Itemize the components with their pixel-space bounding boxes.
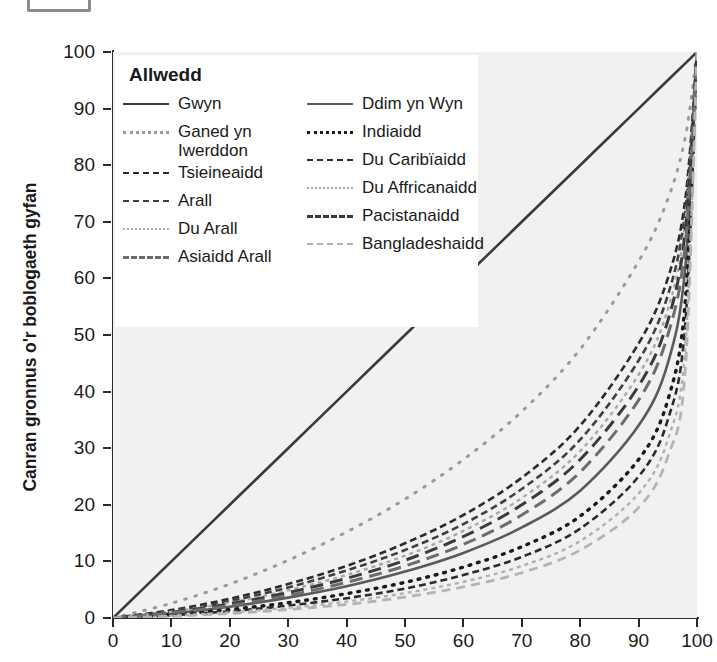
x-tick-mark	[287, 619, 289, 627]
legend-line-swatch	[307, 94, 355, 116]
y-tick-label: 60	[35, 268, 95, 287]
legend-item-label: Pacistanaidd	[362, 204, 459, 225]
legend-item[interactable]: Gwyn	[123, 92, 301, 119]
y-tick-mark	[103, 277, 111, 279]
y-tick-mark	[103, 447, 111, 449]
legend-item[interactable]: Ganed yn Iwerddon	[123, 120, 301, 160]
x-tick-mark	[346, 619, 348, 627]
x-tick-label: 50	[375, 631, 435, 650]
x-tick-mark	[579, 619, 581, 627]
legend-item[interactable]: Tsieineaidd	[123, 161, 301, 188]
legend-item[interactable]: Pacistanaidd	[307, 204, 482, 231]
legend-item-label: Du Affricanaidd	[362, 176, 477, 197]
y-tick-mark	[103, 334, 111, 336]
legend-line-swatch	[123, 122, 171, 144]
legend-line-swatch	[123, 94, 171, 116]
x-tick-label: 0	[83, 631, 143, 650]
chart-legend: Allwedd GwynGaned yn IwerddonTsieineaidd…	[115, 55, 478, 327]
legend-item-label: Bangladeshaidd	[362, 232, 484, 253]
legend-line-swatch	[123, 247, 171, 269]
legend-item[interactable]: Arall	[123, 189, 301, 216]
x-tick-label: 60	[433, 631, 493, 650]
y-tick-mark	[103, 221, 111, 223]
legend-line-swatch	[307, 234, 355, 256]
legend-item-label: Du Caribïaidd	[362, 148, 466, 169]
y-tick-label: 0	[35, 608, 95, 627]
legend-column-left: GwynGaned yn IwerddonTsieineaiddArallDu …	[123, 92, 301, 273]
legend-line-swatch	[307, 206, 355, 228]
y-tick-label: 50	[35, 325, 95, 344]
legend-item-label: Ganed yn Iwerddon	[178, 120, 301, 160]
x-tick-mark	[462, 619, 464, 627]
cropped-box-fragment	[27, 0, 91, 12]
legend-item[interactable]: Du Affricanaidd	[307, 176, 482, 203]
y-tick-mark	[103, 617, 111, 619]
y-tick-label: 90	[35, 99, 95, 118]
y-tick-label: 70	[35, 212, 95, 231]
x-tick-mark	[696, 619, 698, 627]
y-tick-label: 10	[35, 551, 95, 570]
legend-item-label: Indiaidd	[362, 120, 422, 141]
x-tick-mark	[521, 619, 523, 627]
y-tick-mark	[103, 391, 111, 393]
x-tick-label: 80	[550, 631, 610, 650]
legend-item[interactable]: Du Caribïaidd	[307, 148, 482, 175]
x-tick-mark	[229, 619, 231, 627]
x-tick-label: 40	[317, 631, 377, 650]
legend-line-swatch	[123, 219, 171, 241]
legend-title: Allwedd	[129, 64, 202, 86]
y-tick-label: 80	[35, 155, 95, 174]
legend-item-label: Ddim yn Wyn	[362, 92, 463, 113]
legend-item[interactable]: Ddim yn Wyn	[307, 92, 482, 119]
legend-line-swatch	[307, 178, 355, 200]
y-tick-label: 40	[35, 382, 95, 401]
legend-item[interactable]: Indiaidd	[307, 120, 482, 147]
x-tick-label: 20	[200, 631, 260, 650]
x-tick-mark	[404, 619, 406, 627]
legend-line-swatch	[123, 191, 171, 213]
x-tick-label: 90	[609, 631, 669, 650]
y-tick-mark	[103, 504, 111, 506]
legend-item[interactable]: Du Arall	[123, 217, 301, 244]
y-tick-label: 20	[35, 495, 95, 514]
x-tick-label: 70	[492, 631, 552, 650]
x-tick-label: 100	[667, 631, 717, 650]
x-tick-mark	[638, 619, 640, 627]
legend-column-right: Ddim yn WynIndiaiddDu CaribïaiddDu Affri…	[307, 92, 482, 260]
legend-item-label: Arall	[178, 189, 212, 210]
x-tick-label: 10	[141, 631, 201, 650]
legend-item[interactable]: Bangladeshaidd	[307, 232, 482, 259]
legend-line-swatch	[307, 122, 355, 144]
legend-line-swatch	[123, 163, 171, 185]
x-tick-label: 30	[258, 631, 318, 650]
y-tick-label: 30	[35, 438, 95, 457]
x-tick-mark	[170, 619, 172, 627]
y-tick-mark	[103, 108, 111, 110]
legend-line-swatch	[307, 150, 355, 172]
y-tick-label: 100	[35, 42, 95, 61]
legend-item-label: Asiaidd Arall	[178, 245, 272, 266]
x-tick-mark	[112, 619, 114, 627]
legend-item-label: Du Arall	[178, 217, 238, 238]
y-tick-mark	[103, 560, 111, 562]
legend-item[interactable]: Asiaidd Arall	[123, 245, 301, 272]
y-tick-mark	[103, 51, 111, 53]
legend-item-label: Tsieineaidd	[178, 161, 263, 182]
y-tick-mark	[103, 164, 111, 166]
legend-item-label: Gwyn	[178, 92, 221, 113]
